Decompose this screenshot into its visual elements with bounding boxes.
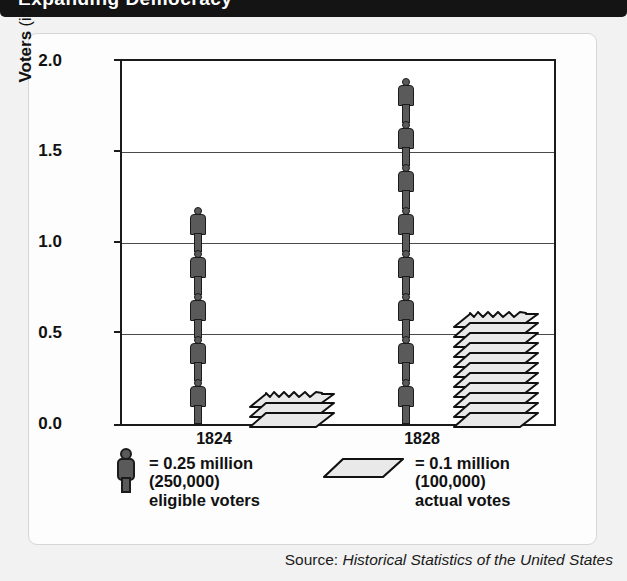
person-icon [185, 207, 211, 252]
legend-item-actual-votes: = 0.1 million (100,000) actual votes [321, 448, 510, 509]
person-torso [190, 214, 206, 235]
legend-label-eligible-voters: = 0.25 million (250,000) eligible voters [149, 448, 260, 509]
person-torso [398, 214, 414, 235]
person-icon [393, 336, 419, 381]
person-icon [185, 293, 211, 338]
ballot-sheet-icon [321, 448, 407, 484]
person-torso [190, 300, 206, 321]
person-torso [398, 386, 414, 407]
person-legs [402, 405, 410, 424]
person-icon [393, 250, 419, 295]
ballot-stack-1824 [248, 394, 340, 424]
y-tick-label-0-5: 0.5 [16, 324, 62, 341]
y-tick-label-0-0: 0.0 [16, 415, 62, 432]
person-torso [398, 343, 414, 364]
person-icon [185, 379, 211, 424]
plot-area [120, 59, 556, 426]
banner-title: Expanding Democracy [18, 0, 232, 10]
chart-legend: = 0.25 million (250,000) eligible voters… [71, 448, 571, 528]
person-icon [185, 250, 211, 295]
y-tick-label-1-5: 1.5 [16, 142, 62, 159]
ballot-sheet-icon [452, 411, 544, 424]
person-torso [190, 343, 206, 364]
person-torso [398, 300, 414, 321]
legend-item-eligible-voters: = 0.25 million (250,000) eligible voters [111, 448, 260, 509]
y-tick-label-2-0: 2.0 [16, 52, 62, 69]
source-title: Historical Statistics of the United Stat… [342, 551, 613, 568]
person-stack-1824 [185, 209, 211, 424]
source-prefix: Source: [285, 551, 343, 568]
person-icon [393, 78, 419, 123]
x-tick-label-1824: 1824 [169, 430, 259, 448]
person-icon [111, 448, 141, 498]
person-torso [398, 171, 414, 192]
source-line: Source: Historical Statistics of the Uni… [0, 551, 613, 569]
person-legs [194, 405, 202, 424]
top-banner: Expanding Democracy [0, 0, 627, 17]
chart-card: Voters (in millions) 2.0 1.5 1.0 0.5 0.0 [28, 33, 597, 545]
person-torso [398, 128, 414, 149]
x-tick-label-1828: 1828 [377, 430, 467, 448]
ballot-sheet-icon [248, 411, 340, 424]
person-icon [393, 164, 419, 209]
legend-label-actual-votes: = 0.1 million (100,000) actual votes [415, 448, 510, 509]
y-axis-title-rest: (in millions) [17, 0, 34, 31]
gridline-1-5 [122, 152, 554, 153]
person-icon [393, 121, 419, 166]
person-torso [190, 257, 206, 278]
ballot-stack-1828 [452, 314, 544, 424]
y-tick-label-1-0: 1.0 [16, 233, 62, 250]
person-icon [185, 336, 211, 381]
person-torso [190, 386, 206, 407]
person-icon [393, 207, 419, 252]
person-torso [398, 85, 414, 106]
person-torso [398, 257, 414, 278]
person-stack-1828 [393, 80, 419, 424]
person-icon [393, 379, 419, 424]
person-icon [393, 293, 419, 338]
